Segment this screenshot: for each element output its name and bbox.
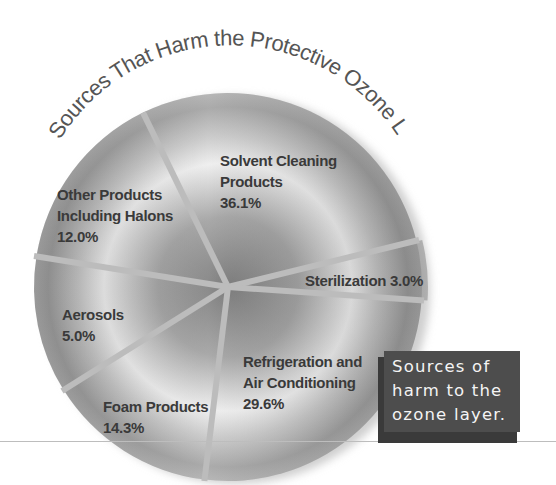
caption-line-1: Sources of xyxy=(392,355,520,379)
label-solvent-line2: Products xyxy=(220,173,283,190)
label-aerosols-line1: Aerosols xyxy=(62,306,124,323)
label-other-value: 12.0% xyxy=(57,228,98,245)
label-refrigeration-line2: Air Conditioning xyxy=(243,374,356,391)
label-sterilization: Sterilization 3.0% xyxy=(305,272,423,289)
label-aerosols-value: 5.0% xyxy=(62,327,95,344)
figure-caption: Sources of harm to the ozone layer. xyxy=(384,351,520,432)
caption-line-2: harm to the xyxy=(392,379,520,403)
label-refrigeration-value: 29.6% xyxy=(243,395,284,412)
label-foam-line1: Foam Products xyxy=(103,398,208,415)
label-other-line2: Including Halons xyxy=(57,207,173,224)
label-other-line1: Other Products xyxy=(57,186,162,203)
label-solvent-line1: Solvent Cleaning xyxy=(220,152,337,169)
label-refrigeration-line1: Refrigeration and xyxy=(243,353,362,370)
label-foam-value: 14.3% xyxy=(103,419,144,436)
caption-line-3: ozone layer. xyxy=(392,403,520,427)
label-solvent-value: 36.1% xyxy=(220,194,261,211)
